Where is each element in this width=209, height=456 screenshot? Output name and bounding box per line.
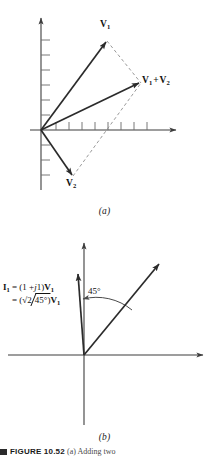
panel-a-axes [30, 18, 176, 190]
panel-b-sublabel: (b) [0, 432, 209, 442]
y-axis-ticks-below [41, 145, 50, 175]
label-v2-panel-a: V2 [66, 179, 76, 189]
angle-arc-45deg [83, 297, 132, 310]
formula-line-2: = (√245°)V1 [3, 293, 60, 305]
panel-a-construction-lines [73, 41, 141, 176]
panel-b-diagram [0, 228, 209, 456]
label-v1-panel-a: V1 [100, 20, 110, 30]
label-v1-plus-v2: V1+V2 [142, 76, 170, 86]
formula-v1-symbol-1: V1 [44, 282, 54, 292]
panel-a-vectors [41, 42, 139, 175]
formula-angle-value: 45° [35, 294, 48, 306]
formula-angle-notation: 45° [30, 293, 50, 306]
formula-line-1: I1 = (1 +j1)V1 [3, 281, 60, 293]
panel-b-phasor-rotation: V1 [0, 228, 209, 456]
formula-equals-2: = [12, 295, 17, 305]
y-axis-ticks-above [41, 40, 50, 115]
label-angle-45deg: 45° [88, 286, 101, 296]
formula-equals-1: = [12, 282, 17, 292]
formula-i1-symbol: I1 [3, 282, 10, 292]
vector-v2 [41, 130, 72, 175]
figure-root: V1 V2 V1+V2 (a) [0, 0, 209, 456]
formula-real-part: (1 + [19, 282, 34, 292]
vector-v1 [84, 264, 159, 355]
formula-i1-expression: I1 = (1 +j1)V1 = (√245°)V1 [3, 281, 60, 305]
figure-caption: FIGURE 10.52 (a) Adding two [0, 447, 209, 456]
x-axis-ticks [56, 122, 147, 130]
panel-a-sublabel: (a) [0, 206, 209, 216]
panel-a-diagram [0, 0, 209, 228]
panel-b-vectors [78, 264, 159, 355]
vector-v1 [41, 42, 106, 130]
plus-operator: + [152, 75, 159, 85]
vector-i1 [78, 274, 84, 355]
caption-figure-number: FIGURE 10.52 [10, 447, 65, 456]
vector-v1-plus-v2 [41, 83, 139, 130]
caption-text: (a) Adding two [67, 447, 115, 456]
dashed-v1-to-resultant [107, 41, 141, 83]
panel-b-axes [8, 243, 203, 425]
formula-v1-symbol-2: V1 [50, 295, 60, 305]
panel-a-vector-addition: V1 V2 V1+V2 [0, 0, 209, 228]
caption-rule-marker [0, 449, 7, 455]
